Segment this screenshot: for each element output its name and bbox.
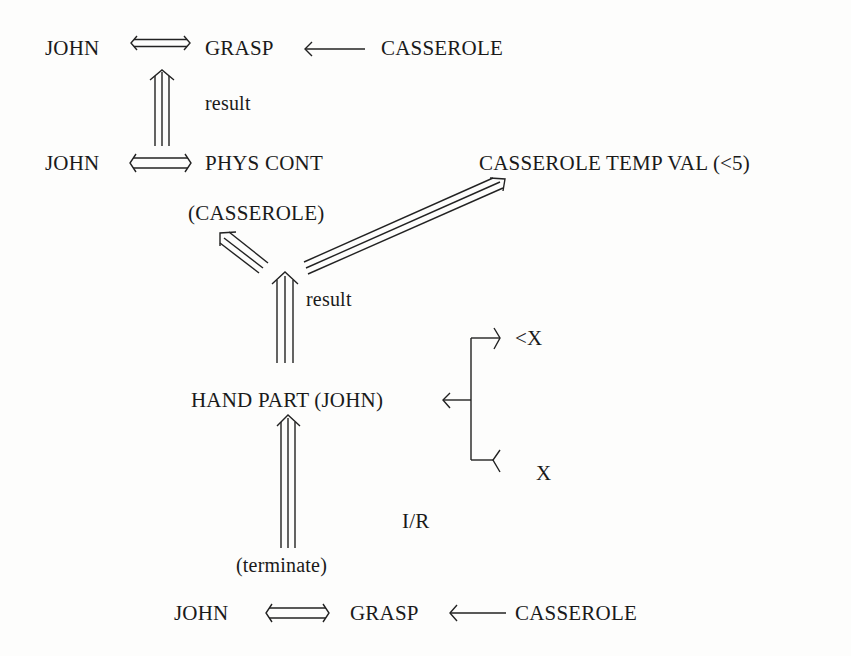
two-way-arrow-bottom	[266, 604, 329, 622]
terminate-label: (terminate)	[236, 553, 327, 577]
instrument-bracket	[443, 328, 500, 472]
result-arrow-1	[150, 70, 174, 146]
top-object: CASSEROLE	[381, 36, 503, 60]
two-way-arrow-top	[131, 36, 190, 50]
terminate-arrow	[277, 415, 300, 548]
arrow-to-temp-val	[304, 178, 505, 274]
branch-upper-label: <X	[515, 326, 542, 350]
branch-lower-label: X	[536, 461, 551, 485]
two-way-arrow-middle	[130, 154, 191, 172]
diagram-links	[0, 0, 851, 656]
bottom-object: CASSEROLE	[515, 601, 637, 625]
hand-part-label: HAND PART (JOHN)	[191, 388, 383, 412]
bottom-actor: JOHN	[174, 601, 228, 625]
middle-object: (CASSEROLE)	[188, 201, 324, 225]
object-arrow-top	[305, 42, 365, 56]
object-arrow-bottom	[450, 605, 506, 621]
ir-label: I/R	[402, 509, 429, 533]
result-arrow-2	[272, 272, 298, 363]
arrow-to-casserole	[220, 232, 268, 273]
middle-state-right: CASSEROLE TEMP VAL (<5)	[479, 151, 750, 175]
result-label-1: result	[205, 91, 251, 115]
middle-state: PHYS CONT	[205, 151, 323, 175]
bottom-act: GRASP	[350, 601, 419, 625]
top-actor: JOHN	[45, 36, 99, 60]
middle-actor: JOHN	[45, 151, 99, 175]
result-label-2: result	[306, 287, 352, 311]
top-act: GRASP	[205, 36, 274, 60]
